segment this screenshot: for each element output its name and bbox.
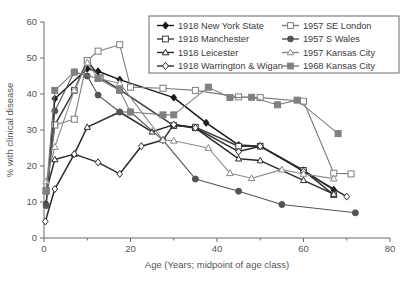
y-axis-title: % with clinical disease xyxy=(4,83,15,178)
y-tick-label: 40 xyxy=(26,88,37,99)
y-tick-label: 0 xyxy=(32,232,37,243)
x-tick-label: 0 xyxy=(41,243,46,254)
x-tick-label: 20 xyxy=(125,243,136,254)
data-point-marker xyxy=(288,36,294,42)
data-point-marker xyxy=(205,84,211,90)
data-point-marker xyxy=(171,112,177,118)
y-tick-label: 20 xyxy=(26,160,37,171)
legend-label: 1957 SE London xyxy=(303,21,371,31)
legend-label: 1957 S Wales xyxy=(303,34,360,44)
data-point-marker xyxy=(160,85,166,91)
y-tick-label: 60 xyxy=(26,16,37,27)
data-point-marker xyxy=(249,94,255,100)
data-point-marker xyxy=(117,109,123,115)
data-point-marker xyxy=(52,87,58,93)
data-series xyxy=(43,65,336,207)
data-point-marker xyxy=(192,87,198,93)
data-point-marker xyxy=(352,210,358,216)
data-point-marker xyxy=(160,112,166,118)
data-point-marker xyxy=(42,218,48,225)
data-point-marker xyxy=(288,63,294,69)
y-tick-label: 50 xyxy=(26,52,37,63)
series-line xyxy=(46,69,334,204)
chart-figure: 0102030405060020406080 1918 New York Sta… xyxy=(0,0,405,285)
y-tick-label: 10 xyxy=(26,196,37,207)
legend-label: 1968 Kansas City xyxy=(303,61,375,71)
legend-label: 1918 Warrington & Wigan xyxy=(178,61,283,71)
data-point-marker xyxy=(95,48,101,54)
data-point-marker xyxy=(294,97,300,103)
chart-legend: 1918 New York State1957 SE London1918 Ma… xyxy=(149,16,399,73)
line-chart: 0102030405060020406080 1918 New York Sta… xyxy=(0,0,405,285)
data-point-marker xyxy=(43,203,49,209)
data-point-marker xyxy=(71,116,77,122)
series-line xyxy=(46,112,334,194)
data-point-marker xyxy=(95,76,101,82)
x-axis-title: Age (Years; midpoint of age class) xyxy=(145,259,289,270)
x-tick-label: 60 xyxy=(298,243,309,254)
data-point-marker xyxy=(52,122,58,128)
legend-label: 1918 New York State xyxy=(178,21,264,31)
axis-titles: Age (Years; midpoint of age class)% with… xyxy=(4,83,289,270)
data-point-marker xyxy=(117,42,123,48)
data-point-marker xyxy=(275,102,281,108)
data-point-marker xyxy=(236,188,242,194)
data-point-marker xyxy=(163,36,169,42)
data-series xyxy=(43,109,337,197)
data-point-marker xyxy=(128,84,134,90)
legend-label: 1957 Kansas City xyxy=(303,48,375,58)
data-point-marker xyxy=(95,92,101,98)
data-point-marker xyxy=(95,159,101,166)
data-point-marker xyxy=(227,95,233,101)
data-point-marker xyxy=(335,131,341,137)
data-point-marker xyxy=(128,109,134,115)
x-tick-label: 40 xyxy=(212,243,223,254)
data-point-marker xyxy=(288,23,294,29)
legend-label: 1918 Leicester xyxy=(178,48,238,58)
data-point-marker xyxy=(43,188,49,194)
data-point-marker xyxy=(192,176,198,182)
legend-label: 1918 Manchester xyxy=(178,34,249,44)
data-point-marker xyxy=(117,87,123,93)
y-tick-label: 30 xyxy=(26,124,37,135)
data-point-marker xyxy=(279,202,285,208)
data-point-marker xyxy=(344,193,350,200)
data-point-marker xyxy=(71,69,77,75)
x-tick-label: 80 xyxy=(385,243,396,254)
data-point-marker xyxy=(348,171,354,177)
